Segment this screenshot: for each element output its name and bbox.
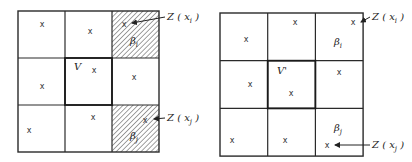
site-point-marker: x <box>27 126 32 135</box>
panel-right: V'xxxxxxxxxβiβjZ ( xi )Z ( xj ) <box>220 11 404 156</box>
site-point-marker: x <box>248 80 253 89</box>
cell-label-beta: βj <box>333 122 343 136</box>
panel-left: VxxxxxxxxxβiβjZ ( xi )Z ( xj ) <box>18 11 199 152</box>
center-cell-V <box>65 58 112 105</box>
cell-label-beta: βi <box>333 36 342 50</box>
site-point-marker: x <box>244 35 249 44</box>
center-cell-label: V' <box>277 65 287 76</box>
hatched-cell <box>112 105 159 152</box>
site-point-marker: x <box>91 113 96 122</box>
site-point-marker: x <box>122 20 127 29</box>
site-point-marker: x <box>289 89 294 98</box>
site-point-marker: x <box>143 116 148 125</box>
site-point-marker: x <box>337 68 342 77</box>
site-point-marker: x <box>92 66 97 75</box>
site-point-marker: x <box>88 27 93 36</box>
site-point-marker: x <box>325 141 330 150</box>
center-cell-V <box>268 61 316 109</box>
annotation-Z-label: Z ( xi ) <box>371 11 404 25</box>
site-point-marker: x <box>293 18 298 27</box>
site-point-marker: x <box>230 136 235 145</box>
site-point-marker: x <box>351 18 356 27</box>
voronoi-grid-figure: VxxxxxxxxxβiβjZ ( xi )Z ( xj )V'xxxxxxxx… <box>0 0 412 162</box>
annotation-Z-label: Z ( xi ) <box>166 11 199 25</box>
site-point-marker: x <box>40 20 45 29</box>
center-cell-label: V <box>74 61 83 72</box>
annotation-arrow <box>361 17 370 22</box>
site-point-marker: x <box>283 136 288 145</box>
annotation-Z-label: Z ( xj ) <box>166 112 199 126</box>
annotation-Z-label: Z ( xj ) <box>371 139 404 153</box>
site-point-marker: x <box>132 73 137 82</box>
site-point-marker: x <box>40 82 45 91</box>
